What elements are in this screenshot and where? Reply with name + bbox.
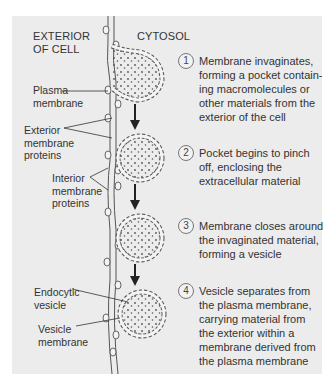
step-number-badge: 4	[178, 283, 194, 299]
pocket-stage-2	[118, 136, 162, 180]
step-number-badge: 3	[178, 218, 194, 234]
step-number-badge: 2	[178, 145, 194, 161]
vesicle-stage-4	[120, 292, 164, 336]
step-text: Pocket begins to pinch off, enclosing th…	[199, 146, 310, 188]
vesicle-membrane-label: Vesicle membrane	[38, 323, 88, 348]
exterior-of-cell-header: EXTERIOR OF CELL	[33, 30, 90, 55]
step-text: Vesicle separates from the plasma membra…	[199, 284, 316, 368]
interior-membrane-proteins-label: Interior membrane proteins	[52, 172, 102, 210]
pocket-stage-1	[112, 46, 162, 100]
exterior-membrane-proteins-label: Exterior membrane proteins	[24, 124, 74, 162]
vesicle-stage-3	[118, 216, 162, 260]
step-text: Membrane closes around the invaginated m…	[199, 219, 323, 261]
plasma-membrane-label: Plasma membrane	[33, 84, 83, 109]
step-number-badge: 1	[178, 53, 194, 69]
step-text: Membrane invaginates, forming a pocket c…	[199, 54, 323, 124]
endocytic-vesicle-label: Endocytic vesicle	[34, 286, 80, 311]
cytosol-header: CYTOSOL	[137, 30, 190, 43]
